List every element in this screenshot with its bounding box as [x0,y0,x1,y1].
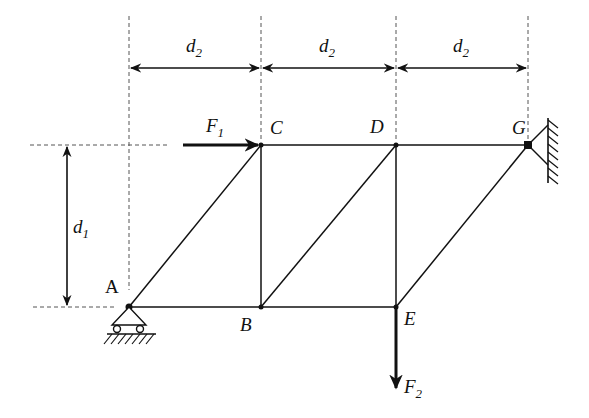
load-arrows [183,145,396,388]
dimension-arrows [67,68,526,305]
node-label-a: A [105,276,119,297]
node-label-e: E [403,308,416,329]
dim-label-d2-3: d2 [453,35,470,60]
force-label-f2: F2 [403,376,423,401]
joint-d [394,143,399,148]
truss-diagram: d2 d2 d2 d1 [0,0,589,418]
dim-label-d2-1: d2 [186,35,203,60]
member-ac [129,145,261,307]
node-label-b: B [240,314,252,335]
truss-members [129,145,528,307]
member-bd [261,145,396,307]
extension-lines [30,16,528,307]
node-label-c: C [270,117,283,138]
member-eg [396,145,528,307]
joint-c [259,143,264,148]
dim-label-d1: d1 [73,216,89,241]
force-label-f1: F1 [205,115,224,140]
node-label-g: G [512,117,526,138]
node-label-d: D [369,116,384,137]
dim-label-d2-2: d2 [319,35,336,60]
joint-b [259,305,264,310]
roller-support-icon [104,307,156,344]
wall-pin-support-icon [528,118,558,184]
